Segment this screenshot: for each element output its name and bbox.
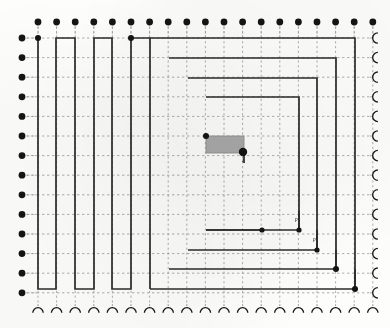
left-pin-dot[interactable]: [19, 289, 26, 296]
left-pin-dot[interactable]: [19, 152, 26, 159]
figure-canvas: zpp': [0, 0, 390, 328]
left-pin-dot[interactable]: [19, 250, 26, 257]
top-pin-dot[interactable]: [258, 19, 265, 26]
left-pin-dot[interactable]: [19, 191, 26, 198]
top-pin-dot[interactable]: [221, 19, 228, 26]
top-pin-dot[interactable]: [165, 19, 172, 26]
left-pin-dot[interactable]: [19, 270, 26, 277]
left-pin-dot[interactable]: [19, 211, 26, 218]
junction-right-3[interactable]: [333, 266, 339, 272]
top-pin-dot[interactable]: [239, 19, 246, 26]
top-pin-dot[interactable]: [202, 19, 209, 26]
top-pin-dot[interactable]: [369, 19, 376, 26]
routing-diagram: zpp': [0, 0, 390, 328]
top-pin-dot[interactable]: [90, 19, 97, 26]
junction-block-nw[interactable]: [203, 133, 209, 139]
junction-top-left[interactable]: [35, 35, 41, 41]
top-pin-dot[interactable]: [276, 19, 283, 26]
top-pin-dot[interactable]: [72, 19, 79, 26]
figure-background: [0, 0, 390, 328]
junction-tail-end[interactable]: [259, 227, 264, 232]
left-pin-dot[interactable]: [19, 172, 26, 179]
junction-right-2[interactable]: [314, 247, 319, 252]
junction-right-4[interactable]: [352, 286, 358, 292]
left-pin-dot[interactable]: [19, 113, 26, 120]
junction-right-1[interactable]: [296, 227, 301, 232]
pin-label-right1: p: [294, 216, 298, 222]
left-pin-dot[interactable]: [19, 231, 26, 238]
top-pin-dot[interactable]: [332, 19, 339, 26]
junction-top-mid[interactable]: [128, 35, 134, 41]
top-pin-dot[interactable]: [109, 19, 116, 26]
top-pin-dot[interactable]: [146, 19, 153, 26]
left-pin-dot[interactable]: [19, 54, 26, 61]
left-pin-dot[interactable]: [19, 93, 26, 100]
left-pin-dot[interactable]: [19, 74, 26, 81]
top-pin-dot[interactable]: [128, 19, 135, 26]
left-pin-dot[interactable]: [19, 133, 26, 140]
macro-block[interactable]: [206, 136, 244, 153]
pin-label-block: z: [241, 157, 244, 163]
top-pin-dot[interactable]: [314, 19, 321, 26]
left-pin-dot[interactable]: [19, 35, 26, 42]
top-pin-dot[interactable]: [183, 19, 190, 26]
top-pin-dot[interactable]: [53, 19, 60, 26]
top-pin-dot[interactable]: [295, 19, 302, 26]
junction-block-se[interactable]: [239, 148, 247, 156]
top-pin-dot[interactable]: [351, 19, 358, 26]
top-pin-dot[interactable]: [35, 19, 42, 26]
